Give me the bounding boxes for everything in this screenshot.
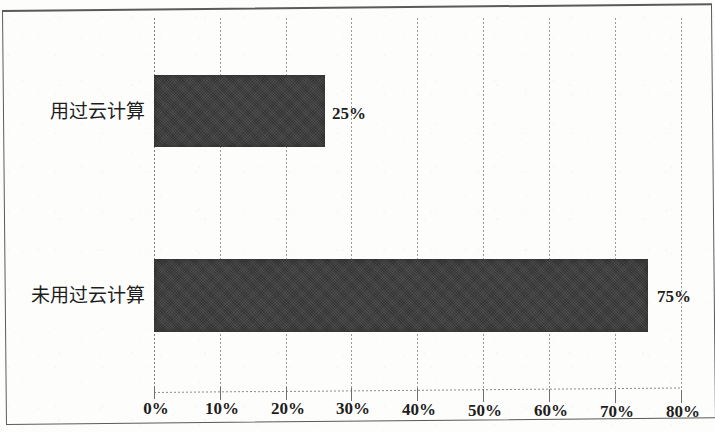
bar-used-cloud [154, 75, 325, 147]
xtick-mark-0 [154, 386, 155, 399]
category-label-used-cloud: 用过云计算 [10, 102, 145, 121]
chart-scan-page: 用过云计算 未用过云计算 25% 75% 0% 10% 20% 30% 40% … [0, 0, 715, 432]
gridline-60 [549, 18, 550, 393]
plot-area: 用过云计算 未用过云计算 25% 75% 0% 10% 20% 30% 40% … [0, 0, 715, 432]
xtick-label-50: 50% [455, 402, 515, 419]
xtick-label-80: 80% [653, 403, 713, 420]
xtick-label-10: 10% [192, 400, 252, 417]
gridline-30 [351, 18, 352, 393]
xtick-label-70: 70% [587, 403, 647, 420]
xtick-label-30: 30% [323, 400, 383, 417]
bar-not-used-cloud [154, 259, 648, 332]
xtick-label-20: 20% [258, 400, 318, 417]
gridline-80 [681, 18, 682, 393]
xtick-label-0: 0% [126, 400, 186, 417]
value-label-used-cloud: 25% [332, 105, 366, 122]
xtick-label-40: 40% [389, 401, 449, 418]
xtick-label-60: 60% [521, 402, 581, 419]
value-label-not-used-cloud: 75% [657, 288, 691, 305]
gridline-40 [417, 18, 418, 393]
gridline-70 [615, 18, 616, 393]
gridline-50 [483, 18, 484, 393]
category-label-not-used-cloud: 未用过云计算 [10, 286, 145, 305]
